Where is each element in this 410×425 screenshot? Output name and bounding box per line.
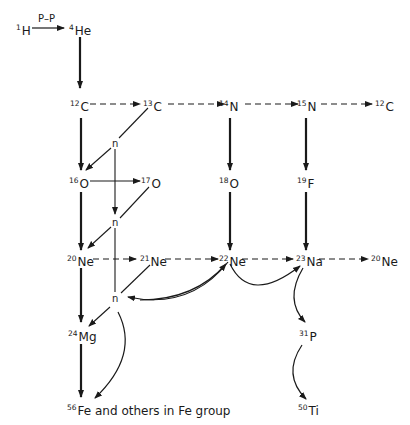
- node-c13: 13C: [143, 97, 162, 114]
- mass-number: 13: [143, 99, 153, 108]
- element-symbol: F: [308, 177, 315, 191]
- node-ne21: 21Ne: [140, 252, 167, 269]
- element-symbol: O: [230, 177, 239, 191]
- node-na23: 23Na: [296, 252, 323, 269]
- mass-number: 18: [219, 176, 229, 185]
- element-symbol: Na: [307, 255, 323, 269]
- node-he4: 4He: [69, 21, 91, 38]
- node-c12-return: 12C: [375, 97, 394, 114]
- node-o18: 18O: [219, 174, 239, 191]
- process-label-pp: P–P: [38, 13, 55, 24]
- mass-number: 12: [70, 99, 80, 108]
- mass-number: 15: [297, 99, 307, 108]
- node-ti50: 50Ti: [298, 401, 319, 418]
- element-symbol: P: [310, 330, 317, 344]
- node-neutron-3: n: [112, 292, 118, 306]
- mass-number: 17: [141, 176, 151, 185]
- node-fe56: 56Fe and others in Fe group: [67, 401, 230, 418]
- mass-number: 14: [219, 99, 229, 108]
- node-o16: 16O: [69, 174, 89, 191]
- element-symbol: Ne: [78, 255, 94, 269]
- mass-number: 20: [371, 254, 381, 263]
- mass-number: 1: [16, 23, 21, 32]
- element-symbol: C: [81, 100, 89, 114]
- node-neutron-1: n: [112, 137, 118, 151]
- mass-number: 56: [67, 403, 77, 412]
- node-ne20: 20Ne: [67, 252, 94, 269]
- mass-number: 21: [140, 254, 150, 263]
- element-symbol: Ne: [230, 255, 246, 269]
- node-p31: 31P: [299, 327, 317, 344]
- node-f19: 19F: [297, 174, 314, 191]
- reaction-edges: [0, 0, 410, 425]
- mass-number: 23: [296, 254, 306, 263]
- node-n14: 14N: [219, 97, 239, 114]
- mass-number: 22: [219, 254, 229, 263]
- element-symbol: C: [386, 100, 394, 114]
- element-symbol: H: [22, 24, 31, 38]
- mass-number: 19: [297, 176, 307, 185]
- mass-number: 50: [298, 403, 308, 412]
- element-symbol: Ne: [151, 255, 167, 269]
- mass-number: 12: [375, 99, 385, 108]
- node-h1: 1H: [16, 21, 31, 38]
- element-symbol: O: [80, 177, 89, 191]
- element-symbol: C: [154, 100, 162, 114]
- mass-number: 20: [67, 254, 77, 263]
- element-symbol: Mg: [79, 330, 97, 344]
- element-symbol: O: [152, 177, 161, 191]
- node-n15: 15N: [297, 97, 317, 114]
- mass-number: 16: [69, 176, 79, 185]
- element-symbol: N: [308, 100, 317, 114]
- mass-number: 31: [299, 329, 309, 338]
- node-ne20-return: 20Ne: [371, 252, 398, 269]
- element-symbol: N: [230, 100, 239, 114]
- element-symbol: Fe and others in Fe group: [78, 404, 231, 418]
- element-symbol: Ne: [382, 255, 398, 269]
- element-symbol: Ti: [309, 404, 319, 418]
- node-c12: 12C: [70, 97, 89, 114]
- node-o17: 17O: [141, 174, 161, 191]
- node-mg24: 24Mg: [68, 327, 97, 344]
- mass-number: 4: [69, 23, 74, 32]
- element-symbol: He: [75, 24, 91, 38]
- node-neutron-2: n: [112, 216, 118, 230]
- mass-number: 24: [68, 329, 78, 338]
- node-ne22: 22Ne: [219, 252, 246, 269]
